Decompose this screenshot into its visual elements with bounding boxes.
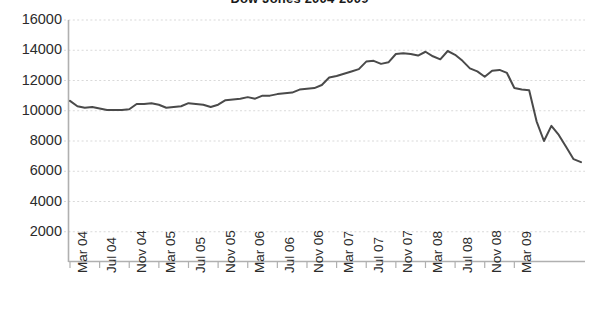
x-axis-tick-label: Mar 04 — [76, 231, 90, 273]
x-axis-tick-label: Mar 07 — [342, 231, 356, 273]
x-axis-labels: Mar 04Jul 04Nov 04Mar 05Jul 05Nov 05Mar … — [0, 0, 599, 335]
x-axis-tick-label: Nov 07 — [401, 230, 415, 273]
x-axis-tick-label: Nov 05 — [224, 230, 238, 273]
x-axis-tick-label: Mar 06 — [253, 231, 267, 273]
x-axis-tick-label: Jul 04 — [105, 237, 119, 273]
x-axis-tick-label: Nov 08 — [490, 230, 504, 273]
x-axis-tick-label: Jul 05 — [194, 237, 208, 273]
x-axis-tick-label: Nov 06 — [312, 230, 326, 273]
x-axis-tick-label: Jul 08 — [461, 237, 475, 273]
x-axis-tick-label: Mar 09 — [520, 231, 534, 273]
x-axis-tick-label: Mar 08 — [431, 231, 445, 273]
x-axis-tick-label: Nov 04 — [135, 230, 149, 273]
x-axis-tick-label: Jul 06 — [283, 237, 297, 273]
dow-jones-line-chart: Dow Jones 2004-2009 16000140001200010000… — [0, 0, 599, 335]
x-axis-tick-label: Jul 07 — [372, 237, 386, 273]
x-axis-tick-label: Mar 05 — [164, 231, 178, 273]
